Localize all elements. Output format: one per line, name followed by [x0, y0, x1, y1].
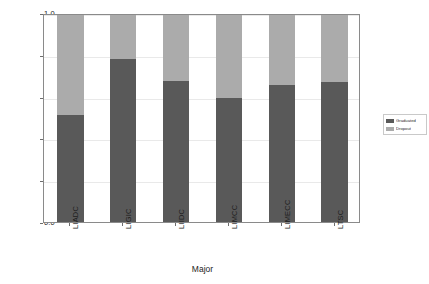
x-tick-mark [334, 223, 335, 226]
bar-segment-graduated [216, 98, 242, 222]
bar-segment-dropout [321, 15, 347, 84]
bar-group [110, 15, 136, 222]
bar-segment-graduated [163, 81, 189, 222]
x-tick-label: LIIDC [178, 209, 186, 229]
x-tick-label: LIMECC [284, 199, 292, 229]
x-tick-label: LIADC [72, 206, 80, 229]
x-tick-label: LIMCC [231, 205, 239, 229]
legend-swatch [386, 119, 394, 123]
bar-segment-dropout [110, 15, 136, 61]
bar-segment-dropout [269, 15, 295, 87]
bar-segment-graduated [110, 59, 136, 222]
bar-group [57, 15, 83, 222]
bar-group [216, 15, 242, 222]
bar-group [163, 15, 189, 222]
legend: GraduatedDropout [383, 114, 427, 135]
x-tick-label: LTSC [337, 210, 345, 229]
bar-segment-graduated [321, 82, 347, 222]
legend-label: Dropout [396, 126, 411, 131]
x-tick-mark [228, 223, 229, 226]
legend-item: Dropout [386, 125, 424, 132]
bars-layer [44, 15, 359, 222]
legend-label: Graduated [396, 118, 416, 123]
x-axis-title: Major [0, 264, 405, 274]
bar-segment-dropout [216, 15, 242, 100]
x-tick-mark [175, 223, 176, 226]
y-tick-mark [40, 223, 43, 224]
x-tick-label: LIGIC [125, 208, 133, 229]
x-tick-mark [281, 223, 282, 226]
plot-area [43, 14, 360, 223]
bar-segment-dropout [163, 15, 189, 83]
bar-segment-dropout [57, 15, 83, 117]
bar-group [269, 15, 295, 222]
legend-item: Graduated [386, 117, 424, 124]
bar-group [321, 15, 347, 222]
legend-swatch [386, 127, 394, 131]
stacked-bar-chart: Proportion 0.00.20.40.60.81.0 LIADCLIGIC… [0, 0, 429, 284]
